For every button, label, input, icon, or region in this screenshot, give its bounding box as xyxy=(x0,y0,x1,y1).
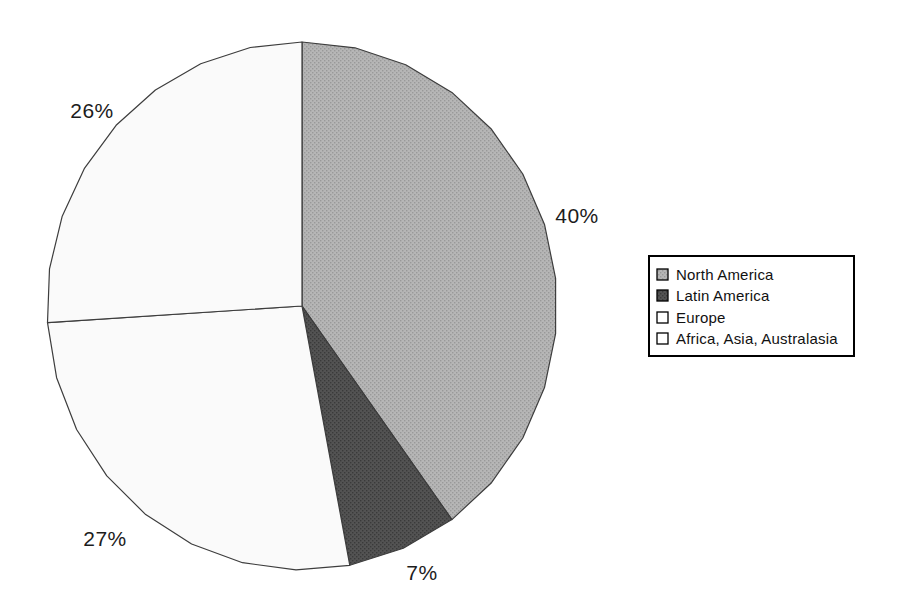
slice-percentage-label-north-america: 40% xyxy=(555,204,599,228)
legend-item-europe: Europe xyxy=(656,307,847,327)
slice-percentage-label-latin-america: 7% xyxy=(406,561,437,585)
legend-item-label: Europe xyxy=(676,309,726,326)
legend: North AmericaLatin AmericaEuropeAfrica, … xyxy=(648,255,855,357)
legend-item-label: Latin America xyxy=(676,287,769,304)
legend-item-africa-asia-australasia: Africa, Asia, Australasia xyxy=(656,329,847,349)
legend-swatch-icon xyxy=(656,311,669,324)
legend-item-label: North America xyxy=(676,266,774,283)
slice-percentage-label-europe: 27% xyxy=(83,527,127,551)
legend-swatch-icon xyxy=(656,332,669,345)
chart-canvas: 40%7%27%26% North AmericaLatin AmericaEu… xyxy=(0,0,898,602)
pie-slice-africa-asia-australasia xyxy=(48,42,303,323)
legend-item-north-america: North America xyxy=(656,264,847,284)
slice-percentage-label-africa-asia-australasia: 26% xyxy=(70,99,114,123)
legend-swatch-icon xyxy=(656,289,669,302)
legend-item-label: Africa, Asia, Australasia xyxy=(676,330,838,347)
legend-item-latin-america: Latin America xyxy=(656,286,847,306)
legend-swatch-icon xyxy=(656,268,669,281)
